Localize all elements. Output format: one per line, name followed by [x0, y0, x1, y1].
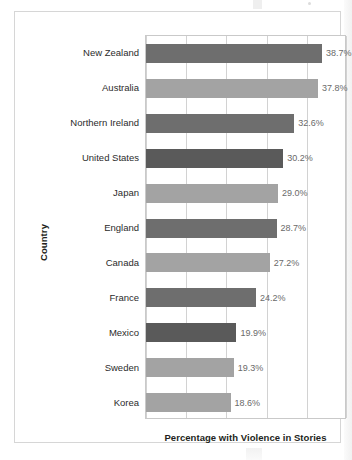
bar-row[interactable]: 30.2%	[146, 149, 345, 168]
category-label: Mexico	[27, 326, 139, 337]
bar-row[interactable]: 38.7%	[146, 44, 345, 63]
bar-row[interactable]: 28.7%	[146, 219, 345, 238]
bar-value-label: 37.8%	[318, 83, 348, 93]
bar-row[interactable]: 32.6%	[146, 114, 345, 133]
category-label: Canada	[27, 256, 139, 267]
bar[interactable]	[146, 219, 277, 238]
bar-row[interactable]: 29.0%	[146, 184, 345, 203]
bar-row[interactable]: 18.6%	[146, 393, 345, 412]
plot-area: 38.7%37.8%32.6%30.2%29.0%28.7%27.2%24.2%…	[145, 35, 346, 419]
bar-row[interactable]: 27.2%	[146, 253, 345, 272]
bar[interactable]	[146, 184, 278, 203]
bar[interactable]	[146, 393, 231, 412]
bar-value-label: 29.0%	[278, 188, 308, 198]
category-label: Sweden	[27, 361, 139, 372]
category-axis-labels: New ZealandAustraliaNorthern IrelandUnit…	[25, 35, 139, 419]
page-scan-mark-top	[253, 0, 262, 9]
bar-value-label: 18.6%	[231, 398, 261, 408]
bar[interactable]	[146, 149, 283, 168]
bar[interactable]	[146, 44, 322, 63]
category-label: Korea	[27, 396, 139, 407]
bar-value-label: 30.2%	[283, 153, 313, 163]
x-axis-title-text: Percentage with Violence in Stories	[164, 432, 326, 443]
category-label: Australia	[27, 82, 139, 93]
figure-page: Country New ZealandAustraliaNorthern Ire…	[0, 0, 352, 460]
bar[interactable]	[146, 323, 236, 342]
bar-value-label: 28.7%	[277, 223, 307, 233]
x-axis-title: Percentage with Violence in Stories	[145, 432, 346, 443]
bar-value-label: 38.7%	[322, 48, 352, 58]
category-label: New Zealand	[27, 47, 139, 58]
page-scan-speck	[308, 2, 311, 5]
bar-row[interactable]: 37.8%	[146, 79, 345, 98]
bar-row[interactable]: 19.3%	[146, 358, 345, 377]
category-label: France	[27, 291, 139, 302]
bar-row[interactable]: 24.2%	[146, 288, 345, 307]
bar[interactable]	[146, 114, 294, 133]
bar-value-label: 32.6%	[294, 118, 324, 128]
bar-series: 38.7%37.8%32.6%30.2%29.0%28.7%27.2%24.2%…	[146, 36, 345, 418]
category-label: United States	[27, 152, 139, 163]
bar-value-label: 27.2%	[270, 258, 300, 268]
category-label: England	[27, 222, 139, 233]
bar-value-label: 24.2%	[256, 293, 286, 303]
bar[interactable]	[146, 288, 256, 307]
bar-row[interactable]: 19.9%	[146, 323, 345, 342]
bar[interactable]	[146, 79, 318, 98]
category-label: Japan	[27, 187, 139, 198]
bar-value-label: 19.3%	[234, 363, 264, 373]
category-label: Northern Ireland	[27, 117, 139, 128]
bar[interactable]	[146, 358, 234, 377]
bar[interactable]	[146, 253, 270, 272]
page-scan-mark-bottom	[246, 448, 262, 460]
bar-value-label: 19.9%	[236, 328, 266, 338]
figure-frame: Country New ZealandAustraliaNorthern Ire…	[14, 11, 341, 443]
